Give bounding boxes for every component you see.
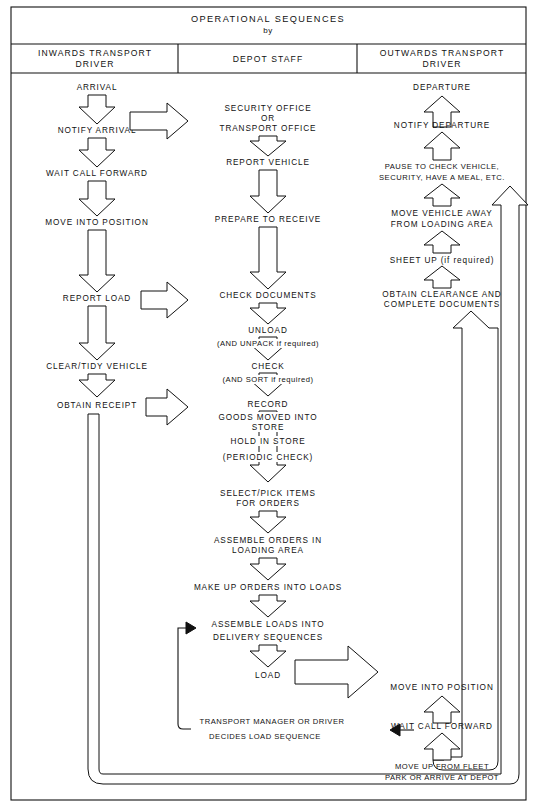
step-check-l1: CHECK: [251, 362, 284, 371]
step-obtain-receipt: OBTAIN RECEIPT: [57, 401, 137, 410]
step-periodic-check: (PERIODIC CHECK): [223, 453, 313, 462]
step-obtain-clearance-l1: OBTAIN CLEARANCE AND: [382, 290, 501, 299]
arrow-down-assemble-orders: [250, 558, 286, 580]
step-departure: DEPARTURE: [413, 83, 471, 92]
step-unload-l2: (AND UNPACK if required): [217, 339, 319, 348]
step-assemble-orders-l2: LOADING AREA: [232, 546, 304, 555]
arrow-down-make-up-orders: [250, 595, 286, 617]
arrow-down-clear-tidy-vehicle: [79, 374, 115, 397]
step-move-vehicle-away-l1: MOVE VEHICLE AWAY: [391, 209, 492, 218]
step-notify-arrival: NOTIFY ARRIVAL: [58, 126, 137, 135]
step-security-office-l1: SECURITY OFFICE: [224, 104, 311, 113]
arrow-up-wait-call-forward-out: [424, 733, 460, 760]
step-move-up-fleet-l2: PARK OR ARRIVE AT DEPOT: [385, 773, 499, 782]
arrow-up-move-into-position-out: [424, 696, 460, 723]
flowchart-canvas: OPERATIONAL SEQUENCES by INWARDS TRANSPO…: [0, 0, 538, 812]
step-pause-check-l2: SECURITY, HAVE A MEAL, ETC.: [379, 173, 505, 182]
page-title-by: by: [263, 26, 273, 35]
arrow-up-move-vehicle-away: [424, 231, 460, 253]
arrow-down-prepare-to-receive: [250, 227, 286, 289]
arrow-down-arrival: [79, 95, 115, 124]
page-title: OPERATIONAL SEQUENCES: [191, 14, 345, 24]
arrow-down-notify-arrival: [79, 138, 115, 167]
arrow-up-notify-departure: [424, 132, 460, 160]
step-select-pick-l1: SELECT/PICK ITEMS: [220, 489, 316, 498]
step-record: RECORD: [248, 400, 289, 409]
feedback-line-load-sequence: [178, 628, 191, 729]
step-sheet-up: SHEET UP (if required): [390, 256, 495, 265]
step-make-up-orders: MAKE UP ORDERS INTO LOADS: [194, 583, 342, 592]
step-transport-manager-l2: DECIDES LOAD SEQUENCE: [209, 732, 321, 741]
step-assemble-loads-l2: DELIVERY SEQUENCES: [213, 633, 323, 642]
flowchart-page: OPERATIONAL SEQUENCES by INWARDS TRANSPO…: [0, 0, 538, 812]
arrow-down-wait-call-forward: [79, 181, 115, 216]
step-prepare-to-receive: PREPARE TO RECEIVE: [215, 215, 321, 224]
arrow-right-notify-to-office: [130, 103, 188, 139]
step-report-vehicle: REPORT VEHICLE: [226, 158, 310, 167]
col-header-outwards-line2: DRIVER: [422, 59, 461, 69]
step-obtain-clearance-l2: COMPLETE DOCUMENTS: [384, 300, 500, 309]
col-header-outwards-line1: OUTWARDS TRANSPORT: [380, 48, 505, 58]
step-hold-in-store: HOLD IN STORE: [230, 437, 305, 446]
arrow-up-sheet-up: [424, 266, 460, 288]
step-check-l2: (AND SORT if required): [223, 375, 314, 384]
arrow-down-move-into-position: [79, 230, 115, 292]
step-move-into-position-out: MOVE INTO POSITION: [390, 683, 493, 692]
col-header-depot-line1: DEPOT STAFF: [233, 54, 304, 64]
feedback-arrowhead-load-sequence: [186, 622, 196, 634]
step-arrival: ARRIVAL: [77, 83, 118, 92]
arrow-up-pause-check: [424, 184, 460, 206]
step-move-vehicle-away-l2: FROM LOADING AREA: [391, 220, 494, 229]
step-move-up-fleet-l1: MOVE UP FROM FLEET: [395, 762, 489, 771]
col-header-inwards-line1: INWARDS TRANSPORT: [38, 48, 152, 58]
arrow-right-receipt-to-record: [146, 389, 188, 425]
step-pause-check-l1: PAUSE TO CHECK VEHICLE,: [385, 162, 499, 171]
step-assemble-loads-l1: ASSEMBLE LOADS INTO: [212, 620, 325, 629]
step-notify-departure: NOTIFY DEPARTURE: [394, 121, 490, 130]
step-report-load: REPORT LOAD: [63, 294, 131, 303]
arrow-down-check-documents: [250, 303, 286, 324]
step-security-office-l2: OR: [261, 114, 275, 123]
step-move-into-position: MOVE INTO POSITION: [45, 218, 148, 227]
step-goods-moved-l2: STORE: [252, 423, 285, 432]
arrow-right-report-load-to-check-docs: [141, 282, 188, 318]
step-wait-call-forward: WAIT CALL FORWARD: [46, 169, 148, 178]
step-load: LOAD: [255, 671, 281, 680]
arrow-down-report-vehicle: [250, 170, 286, 213]
step-assemble-orders-l1: ASSEMBLE ORDERS IN: [214, 536, 322, 545]
arrow-down-security-office: [250, 136, 286, 156]
arrow-right-load-to-move-into-position: [295, 646, 378, 698]
step-security-office-l3: TRANSPORT OFFICE: [220, 124, 317, 133]
col-header-inwards-line2: DRIVER: [75, 59, 114, 69]
arrow-down-report-load: [79, 306, 115, 360]
step-clear-tidy-vehicle: CLEAR/TIDY VEHICLE: [46, 362, 148, 371]
step-goods-moved-l1: GOODS MOVED INTO: [219, 413, 318, 422]
step-select-pick-l2: FOR ORDERS: [236, 499, 300, 508]
arrow-down-select-pick: [250, 511, 286, 533]
step-unload-l1: UNLOAD: [248, 326, 288, 335]
arrow-down-assemble-loads: [250, 645, 286, 667]
step-transport-manager-l1: TRANSPORT MANAGER OR DRIVER: [200, 717, 345, 726]
step-check-documents: CHECK DOCUMENTS: [219, 291, 316, 300]
